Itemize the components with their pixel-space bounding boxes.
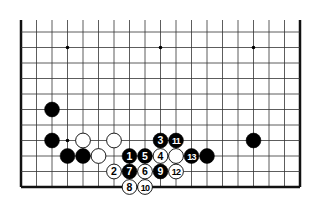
black-stone: 9	[153, 164, 168, 179]
move-number-label: 13	[187, 152, 196, 162]
black-stone: 13	[184, 149, 199, 164]
white-stone: 8	[122, 180, 137, 195]
black-stone	[45, 102, 60, 117]
move-number-label: 1	[127, 150, 133, 162]
move-number-label: 11	[172, 136, 181, 146]
move-number-label: 3	[158, 134, 164, 146]
black-stone: 7	[122, 164, 137, 179]
white-stone	[169, 149, 184, 164]
black-stone	[60, 149, 75, 164]
white-stone: 4	[153, 149, 168, 164]
stones: 31115413276912810	[45, 102, 261, 194]
white-stone	[107, 133, 122, 148]
white-stone: 12	[169, 164, 184, 179]
black-stone	[246, 133, 261, 148]
move-number-label: 9	[158, 165, 164, 177]
move-number-label: 12	[172, 167, 181, 177]
move-number-label: 2	[111, 165, 117, 177]
black-stone: 5	[138, 149, 153, 164]
white-stone	[91, 149, 106, 164]
white-stone	[76, 133, 91, 148]
white-stone: 10	[138, 180, 153, 195]
move-number-label: 5	[142, 150, 148, 162]
white-stone: 2	[107, 164, 122, 179]
move-number-label: 8	[127, 181, 133, 193]
black-stone: 11	[169, 133, 184, 148]
star-point-icon	[252, 46, 256, 50]
go-board: 31115413276912810	[0, 0, 317, 215]
white-stone: 6	[138, 164, 153, 179]
black-stone	[45, 133, 60, 148]
move-number-label: 6	[142, 165, 148, 177]
black-stone: 3	[153, 133, 168, 148]
move-number-label: 4	[158, 150, 164, 162]
black-stone	[76, 149, 91, 164]
move-number-label: 7	[127, 165, 133, 177]
black-stone	[200, 149, 215, 164]
move-number-label: 10	[141, 183, 150, 193]
star-point-icon	[66, 46, 70, 50]
black-stone: 1	[122, 149, 137, 164]
star-point-icon	[159, 46, 163, 50]
star-point-icon	[66, 139, 70, 143]
